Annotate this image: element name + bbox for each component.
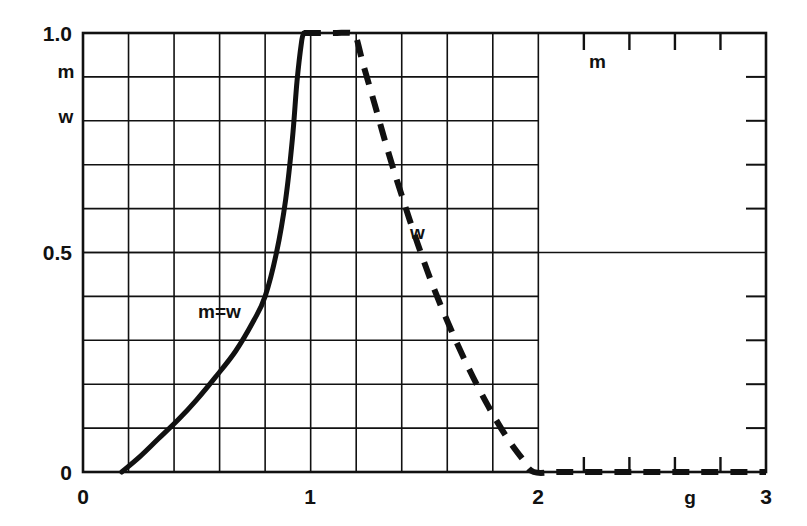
- ytick-label-0p5: 0.5: [43, 241, 73, 264]
- xtick-label-2: 2: [532, 485, 544, 508]
- xtick-label-1: 1: [304, 485, 316, 508]
- xtick-label-3: 3: [760, 485, 772, 508]
- ytick-label-1p0: 1.0: [43, 22, 72, 45]
- annotation-m-equals-w: m=w: [198, 301, 241, 322]
- yaxis-name-m: m: [58, 61, 75, 82]
- xtick-label-0: 0: [77, 485, 89, 508]
- line-chart: 1.0 0.5 0 m w 0 1 2 3 g m=w w m: [0, 0, 807, 526]
- annotation-m: m: [589, 51, 606, 72]
- xaxis-name-g: g: [684, 487, 696, 508]
- yaxis-name-w: w: [58, 106, 74, 127]
- annotation-w: w: [409, 222, 425, 243]
- ytick-label-0: 0: [60, 461, 72, 484]
- figure-root: 1.0 0.5 0 m w 0 1 2 3 g m=w w m: [0, 0, 807, 526]
